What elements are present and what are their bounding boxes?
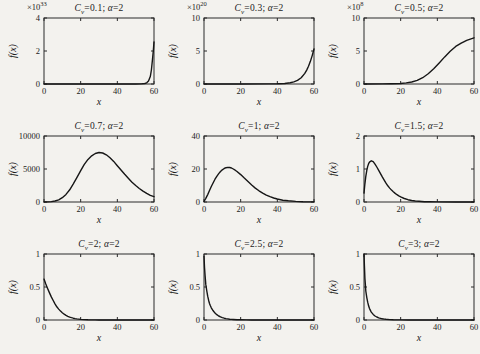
x-axis-label: x: [38, 214, 160, 225]
y-tick-label: 0: [36, 79, 40, 89]
x-tick-label: 40: [273, 322, 282, 332]
x-tick-label: 60: [150, 86, 159, 96]
figure-grid: ×1033 Cv=0.1; α=2 f(x) 0204060024 x ×102…: [0, 0, 480, 354]
x-axis-label: x: [198, 96, 320, 107]
x-axis-label: x: [198, 332, 320, 343]
axes-box: [44, 18, 154, 84]
axes-box: [204, 254, 314, 320]
subplot-cv-2-5: Cv=2.5; α=2 f(x) 020406000.51 x: [160, 236, 320, 354]
y-tick-label: 0: [196, 197, 200, 207]
x-axis-label: x: [358, 96, 480, 107]
x-tick-label: 40: [113, 86, 122, 96]
y-tick-label: 20: [192, 164, 201, 174]
x-tick-label: 60: [470, 322, 479, 332]
x-axis-label: x: [358, 332, 480, 343]
x-tick-label: 20: [396, 86, 405, 96]
axes-box: [364, 18, 474, 84]
y-tick-label: 0.5: [349, 282, 360, 292]
y-tick-label: 5: [196, 46, 200, 56]
subplot-cv-0-7: Cv=0.7; α=2 f(x) 02040600500010000 x: [0, 118, 160, 236]
x-tick-label: 0: [202, 86, 206, 96]
x-tick-label: 0: [42, 322, 46, 332]
subplot-cv-1: Cv=1; α=2 f(x) 020406002040 x: [160, 118, 320, 236]
subplot-cv-3: Cv=3; α=2 f(x) 020406000.51 x: [320, 236, 480, 354]
subplot-cv-0-1: ×1033 Cv=0.1; α=2 f(x) 0204060024 x: [0, 0, 160, 118]
x-tick-label: 60: [310, 86, 319, 96]
x-tick-label: 20: [396, 322, 405, 332]
y-tick-label: 1: [356, 164, 360, 174]
y-tick-label: 2: [356, 131, 360, 141]
x-tick-label: 0: [362, 204, 366, 214]
axes-box: [364, 254, 474, 320]
x-tick-label: 40: [113, 204, 122, 214]
pdf-curve: [44, 279, 154, 320]
y-tick-label: 0: [356, 79, 360, 89]
y-tick-label: 0: [356, 315, 360, 325]
pdf-curve: [204, 49, 314, 84]
x-axis-label: x: [358, 214, 480, 225]
subplot-cv-1-5: Cv=1.5; α=2 f(x) 0204060012 x: [320, 118, 480, 236]
y-tick-label: 0: [36, 197, 40, 207]
x-tick-label: 0: [42, 204, 46, 214]
axes-box: [44, 136, 154, 202]
x-tick-label: 0: [42, 86, 46, 96]
pdf-curve: [364, 254, 474, 320]
x-tick-label: 40: [433, 204, 442, 214]
y-tick-label: 0.5: [29, 282, 40, 292]
y-tick-label: 5: [356, 46, 360, 56]
pdf-curve: [204, 167, 314, 202]
y-tick-label: 1: [196, 249, 200, 259]
x-tick-label: 40: [433, 86, 442, 96]
x-tick-label: 20: [76, 204, 85, 214]
y-tick-label: 2: [36, 46, 40, 56]
subplot-cv-0-3: ×1020 Cv=0.3; α=2 f(x) 02040600510 x: [160, 0, 320, 118]
x-tick-label: 60: [310, 204, 319, 214]
x-tick-label: 0: [202, 322, 206, 332]
x-axis-label: x: [38, 96, 160, 107]
pdf-curve: [44, 153, 154, 203]
subplot-cv-2: Cv=2; α=2 f(x) 020406000.51 x: [0, 236, 160, 354]
y-tick-label: 0: [356, 197, 360, 207]
y-tick-label: 10: [352, 13, 361, 23]
x-axis-label: x: [38, 332, 160, 343]
x-tick-label: 20: [76, 86, 85, 96]
x-tick-label: 20: [236, 204, 245, 214]
axes-box: [204, 18, 314, 84]
y-tick-label: 0: [196, 315, 200, 325]
axes-box: [364, 136, 474, 202]
x-axis-label: x: [198, 214, 320, 225]
x-tick-label: 40: [433, 322, 442, 332]
y-tick-label: 1: [356, 249, 360, 259]
x-tick-label: 20: [76, 322, 85, 332]
y-tick-label: 5000: [23, 164, 40, 174]
y-tick-label: 40: [192, 131, 201, 141]
x-tick-label: 20: [236, 322, 245, 332]
x-tick-label: 20: [396, 204, 405, 214]
subplot-cv-0-5: ×108 Cv=0.5; α=2 f(x) 02040600510 x: [320, 0, 480, 118]
x-tick-label: 60: [310, 322, 319, 332]
y-tick-label: 0.5: [189, 282, 200, 292]
x-tick-label: 60: [150, 322, 159, 332]
y-tick-label: 0: [36, 315, 40, 325]
x-tick-label: 60: [470, 204, 479, 214]
x-tick-label: 40: [273, 86, 282, 96]
pdf-curve: [364, 38, 474, 84]
y-tick-label: 10000: [19, 131, 40, 141]
x-tick-label: 40: [273, 204, 282, 214]
x-tick-label: 20: [236, 86, 245, 96]
pdf-curve: [204, 257, 314, 320]
y-tick-label: 10: [192, 13, 201, 23]
x-tick-label: 60: [470, 86, 479, 96]
x-tick-label: 0: [362, 322, 366, 332]
x-tick-label: 0: [202, 204, 206, 214]
pdf-curve: [364, 161, 474, 202]
x-tick-label: 40: [113, 322, 122, 332]
pdf-curve: [44, 42, 154, 84]
x-tick-label: 0: [362, 86, 366, 96]
y-tick-label: 1: [36, 249, 40, 259]
y-tick-label: 0: [196, 79, 200, 89]
x-tick-label: 60: [150, 204, 159, 214]
axes-box: [204, 136, 314, 202]
y-tick-label: 4: [36, 13, 41, 23]
